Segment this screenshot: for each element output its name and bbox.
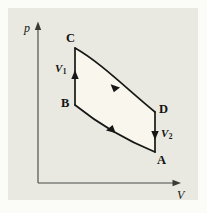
plot-canvas bbox=[0, 0, 207, 213]
volume-2-symbol: V bbox=[161, 127, 168, 139]
pressure-axis-label: p bbox=[24, 22, 30, 34]
volume-axis-label: V bbox=[177, 189, 184, 201]
volume-1-label: V1 bbox=[55, 63, 66, 74]
volume-1-symbol: V bbox=[55, 62, 62, 74]
cycle-interior-fill bbox=[75, 48, 155, 152]
volume-1-subscript: 1 bbox=[63, 67, 67, 76]
volume-2-subscript: 2 bbox=[169, 132, 173, 141]
volume-axis-arrowhead bbox=[173, 180, 182, 186]
point-label-b: B bbox=[61, 97, 70, 110]
pv-diagram-figure: p V C B D A V1 V2 bbox=[0, 0, 207, 213]
point-label-c: C bbox=[66, 32, 75, 45]
point-label-a: A bbox=[157, 154, 166, 167]
volume-2-label: V2 bbox=[161, 128, 172, 139]
point-label-d: D bbox=[159, 103, 168, 116]
pressure-axis-arrowhead bbox=[35, 22, 41, 31]
